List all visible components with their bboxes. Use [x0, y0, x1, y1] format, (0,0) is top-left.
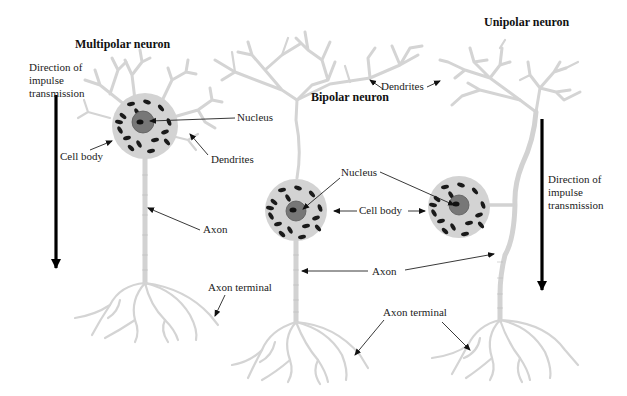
unipolar-axon-terminal: [432, 320, 578, 382]
bipolar-nucleus-label: Nucleus: [341, 166, 377, 179]
multipolar-title: Multipolar neuron: [75, 38, 170, 51]
unipolar-dendrites: [440, 40, 580, 112]
bipolar-axon-terminal-label: Axon terminal: [383, 306, 447, 319]
unipolar-title: Unipolar neuron: [484, 16, 569, 29]
multipolar-direction-label: Direction of impulse transmission: [29, 61, 99, 100]
bipolar-dendrites-label: Dendrites: [381, 80, 424, 93]
pointer-unipolar-axon-terminal: [442, 322, 470, 350]
pointer-multipolar-cell-body: [90, 141, 112, 150]
bipolar-axon-label: Axon: [372, 265, 396, 278]
multipolar-cell-body-label: Cell body: [60, 150, 103, 163]
unipolar-direction-label: Direction of impulse transmission: [548, 173, 623, 212]
bipolar-axon-terminal: [232, 322, 368, 384]
unipolar-axon: [500, 112, 536, 320]
bipolar-cell-body-label: Cell body: [359, 204, 402, 217]
pointer-multipolar-axon: [148, 208, 200, 230]
pointer-bipolar-axon-terminal: [355, 320, 384, 355]
multipolar-dendrites-label: Dendrites: [211, 153, 254, 166]
bipolar-title: Bipolar neuron: [311, 91, 389, 104]
multipolar-axon-terminal-label: Axon terminal: [208, 281, 272, 294]
multipolar-axon-terminal: [75, 283, 218, 342]
pointer-multipolar-axon-terminal: [215, 295, 225, 316]
multipolar-nucleus-label: Nucleus: [237, 111, 273, 124]
multipolar-axon-label: Axon: [203, 223, 227, 236]
pointer-axon-right: [405, 254, 494, 270]
pointer-bipolar-dendrites-right: [427, 81, 440, 87]
neuron-diagram-canvas: [0, 0, 627, 396]
